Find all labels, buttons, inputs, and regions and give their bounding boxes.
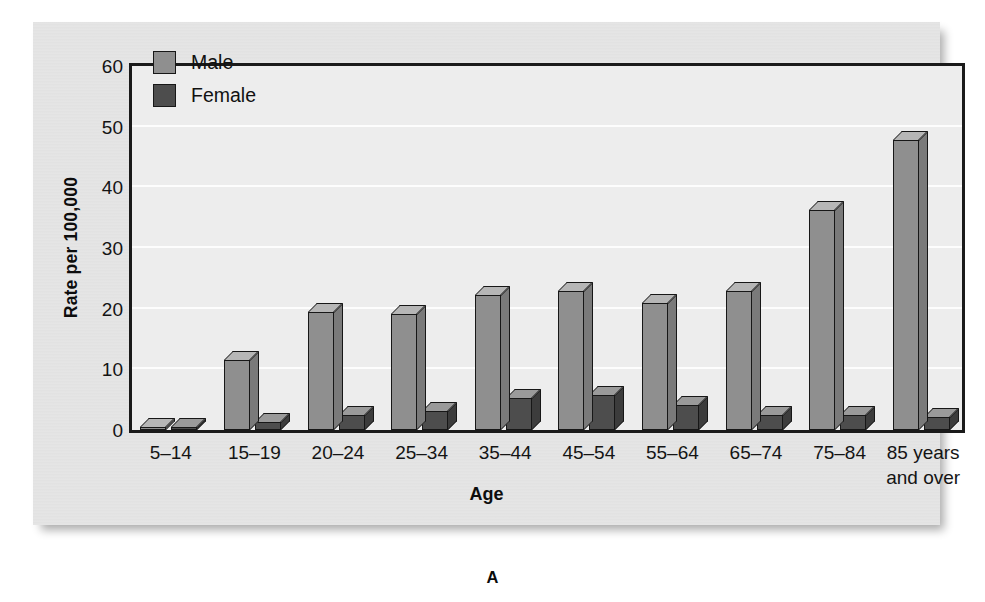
figure-root: Rate per 100,000 0102030405060 MaleFemal… [0, 0, 985, 602]
y-axis-tick-label: 20 [83, 300, 123, 319]
figure-panel: Rate per 100,000 0102030405060 MaleFemal… [33, 22, 940, 525]
y-axis-tick-label: 0 [83, 421, 123, 440]
gridline [132, 307, 962, 309]
gridline [132, 125, 962, 127]
y-axis-tick-label: 30 [83, 239, 123, 258]
figure-letter-caption: A [0, 568, 985, 587]
y-axis-tick-label: 60 [83, 57, 123, 76]
x-axis-tick-label: 85 years and over [867, 440, 979, 490]
plot-area [129, 63, 965, 433]
gridline [132, 185, 962, 187]
gridline [132, 367, 962, 369]
y-axis-tick-label: 40 [83, 178, 123, 197]
x-axis-title: Age [33, 484, 940, 505]
y-axis-tick-label: 10 [83, 360, 123, 379]
gridline [132, 246, 962, 248]
y-axis-tick-label: 50 [83, 118, 123, 137]
